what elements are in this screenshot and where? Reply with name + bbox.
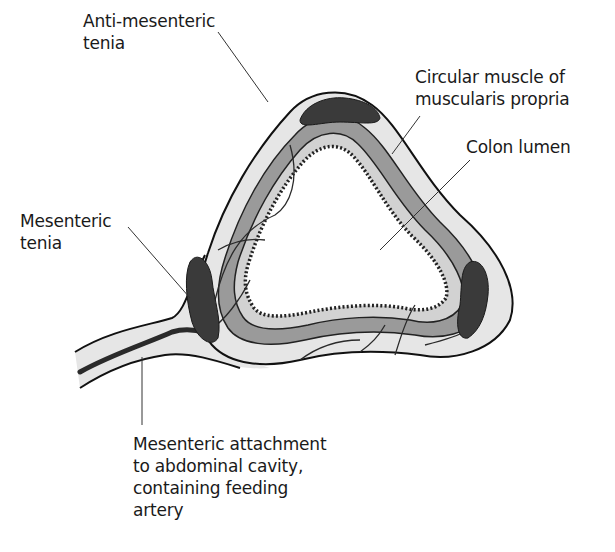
label-colon-lumen: Colon lumen [466,136,571,158]
colon-cross-section-diagram: Anti-mesenteric tenia Circular muscle of… [0,0,615,552]
label-circular-muscle: Circular muscle of muscularis propria [415,66,570,110]
leader-anti-mesenteric [218,32,268,102]
leader-mesenteric-tenia [128,227,190,298]
label-mesenteric-tenia: Mesenteric tenia [20,210,111,254]
label-anti-mesenteric-tenia: Anti-mesenteric tenia [83,10,215,54]
label-mesenteric-attachment: Mesenteric attachment to abdominal cavit… [133,433,326,521]
